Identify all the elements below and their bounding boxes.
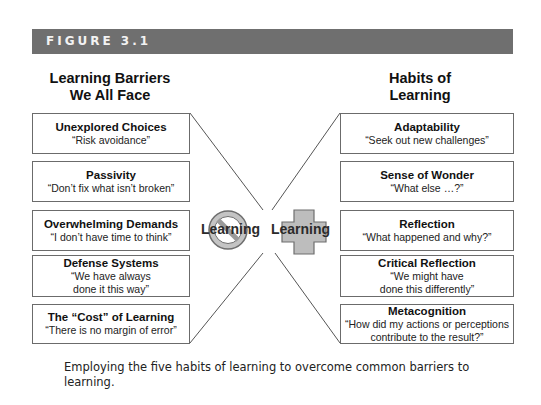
connector-line [190,113,263,210]
habit-title: Reflection [399,218,455,231]
barrier-box: The “Cost” of Learning “There is no marg… [32,304,190,344]
connector-line [190,253,263,343]
habit-quote: “What happened and why?” [363,231,492,244]
barrier-quote: “There is no margin of error” [45,324,176,337]
habit-quote: “What else …?” [391,182,464,195]
barrier-box: Defense Systems “We have always done it … [32,255,190,297]
connector-line [275,253,340,343]
habit-box: Metacognition “How did my actions or per… [340,304,514,344]
figure-caption: Employing the five habits of learning to… [64,360,484,390]
barrier-quote: “We have always done it this way” [71,270,151,295]
habit-title: Metacognition [388,305,466,318]
barrier-title: Passivity [86,169,136,182]
habit-title: Sense of Wonder [380,169,474,182]
habit-box: Sense of Wonder “What else …?” [340,161,514,202]
habit-box: Adaptability “Seek out new challenges” [340,113,514,154]
habit-box: Critical Reflection “We might have done … [340,255,514,297]
no-learning-label: Learning [201,221,260,237]
habit-quote: “We might have done this differently” [380,270,474,295]
barrier-box: Passivity “Don’t fix what isn’t broken” [32,161,190,202]
connector-line [272,113,340,210]
barrier-box: Overwhelming Demands “I don’t have time … [32,210,190,251]
habit-box: Reflection “What happened and why?” [340,210,514,251]
barrier-title: Overwhelming Demands [44,218,178,231]
connector-lines [0,0,541,405]
barrier-quote: “Don’t fix what isn’t broken” [48,182,175,195]
barrier-title: The “Cost” of Learning [48,311,175,324]
barrier-quote: “I don’t have time to think” [51,231,172,244]
barrier-quote: “Risk avoidance” [72,134,150,147]
barrier-title: Unexplored Choices [55,121,166,134]
barrier-box: Unexplored Choices “Risk avoidance” [32,113,190,154]
barrier-title: Defense Systems [63,257,158,270]
habit-title: Adaptability [394,121,460,134]
habit-quote: “Seek out new challenges” [365,134,489,147]
habit-title: Critical Reflection [378,257,476,270]
plus-learning-label: Learning [271,221,330,237]
habit-quote: “How did my actions or perceptions contr… [345,318,509,343]
